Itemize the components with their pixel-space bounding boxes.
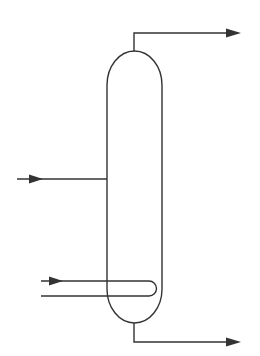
reboiler-arrow-icon — [49, 277, 63, 286]
overhead-arrow-icon — [226, 29, 241, 38]
feed-stream — [17, 175, 107, 184]
diagram-canvas — [0, 0, 260, 356]
feed-arrow-icon — [29, 175, 43, 184]
reboiler-coil — [41, 277, 157, 297]
distillation-column-diagram — [0, 0, 260, 356]
bottoms-stream — [134, 323, 241, 347]
bottoms-arrow-icon — [226, 338, 241, 347]
overhead-stream — [134, 29, 241, 52]
